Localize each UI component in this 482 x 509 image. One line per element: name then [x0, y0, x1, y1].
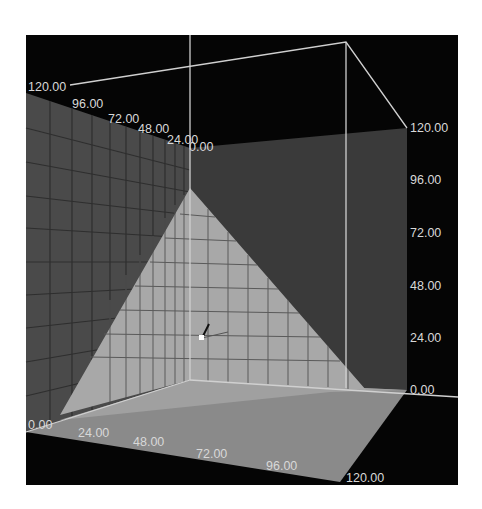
3d-plot[interactable]: 120.00 96.00 72.00 48.00 24.00 0.00 120.…: [0, 0, 482, 509]
svg-text:72.00: 72.00: [410, 226, 441, 240]
svg-text:96.00: 96.00: [410, 173, 441, 187]
svg-text:120.00: 120.00: [28, 80, 66, 94]
svg-text:48.00: 48.00: [138, 122, 169, 136]
svg-text:0.00: 0.00: [189, 140, 213, 154]
svg-text:96.00: 96.00: [72, 97, 103, 111]
svg-text:72.00: 72.00: [108, 112, 139, 126]
svg-text:120.00: 120.00: [410, 121, 448, 135]
svg-text:120.00: 120.00: [346, 471, 384, 485]
svg-text:72.00: 72.00: [196, 447, 227, 461]
svg-text:0.00: 0.00: [410, 383, 434, 397]
svg-text:48.00: 48.00: [133, 435, 164, 449]
svg-text:96.00: 96.00: [266, 459, 297, 473]
svg-text:0.00: 0.00: [28, 418, 52, 432]
svg-text:24.00: 24.00: [78, 426, 109, 440]
svg-text:48.00: 48.00: [410, 279, 441, 293]
svg-text:24.00: 24.00: [410, 331, 441, 345]
